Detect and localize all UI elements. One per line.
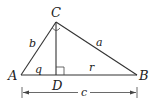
vertex-label-c: C [51, 5, 61, 20]
vertex-label-a: A [7, 68, 17, 83]
vertex-label-d: D [51, 78, 63, 93]
side-label-b: b [29, 37, 36, 50]
side-label-a: a [96, 36, 103, 49]
segment-label-r: r [89, 61, 95, 74]
segment-label-q: q [35, 63, 42, 76]
arrowhead-left-icon [23, 91, 29, 95]
right-angle-mark-icon [56, 67, 64, 75]
arrowhead-right-icon [130, 91, 136, 95]
vertex-label-b: B [138, 68, 149, 83]
triangle-diagram: C A B D b a q r c [0, 0, 154, 106]
side-label-c: c [81, 86, 87, 99]
